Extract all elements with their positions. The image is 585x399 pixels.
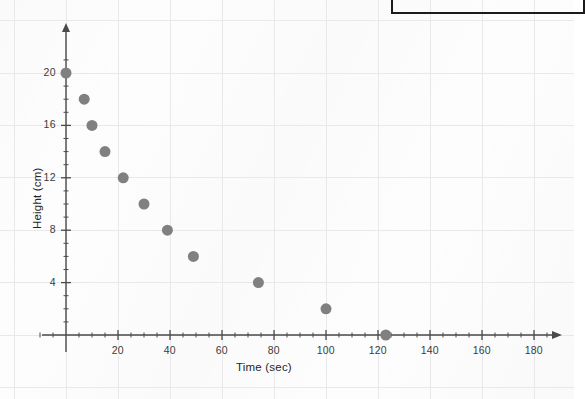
y-axis-tick-label: 20 <box>44 66 56 78</box>
data-point <box>139 199 150 210</box>
y-axis-tick-label: 8 <box>50 223 56 235</box>
y-axis-tick-label: 4 <box>50 276 56 288</box>
x-axis-tick-label: 80 <box>268 344 280 356</box>
y-axis-arrow <box>62 23 70 32</box>
x-axis-tick-label: 60 <box>216 344 228 356</box>
x-axis-tick-label: 40 <box>164 344 176 356</box>
x-axis-title: Time (sec) <box>236 361 292 373</box>
data-point <box>87 120 98 131</box>
data-point <box>380 330 391 341</box>
x-axis-tick-label: 180 <box>525 344 543 356</box>
data-point <box>61 68 72 79</box>
x-axis-arrow <box>552 331 562 339</box>
data-point <box>100 146 111 157</box>
x-axis-tick-label: 120 <box>369 344 387 356</box>
x-axis-tick-label: 160 <box>473 344 491 356</box>
data-point <box>79 94 90 105</box>
data-point <box>162 225 173 236</box>
data-point <box>253 277 264 288</box>
data-point <box>188 251 199 262</box>
x-axis-tick-label: 100 <box>317 344 335 356</box>
x-axis-tick-label: 140 <box>421 344 439 356</box>
data-point <box>118 172 129 183</box>
y-axis-title: Height (cm) <box>31 167 43 229</box>
y-axis-tick-label: 16 <box>44 118 56 130</box>
x-axis-tick-label: 20 <box>112 344 124 356</box>
y-axis-tick-label: 12 <box>44 171 56 183</box>
data-point <box>321 303 332 314</box>
